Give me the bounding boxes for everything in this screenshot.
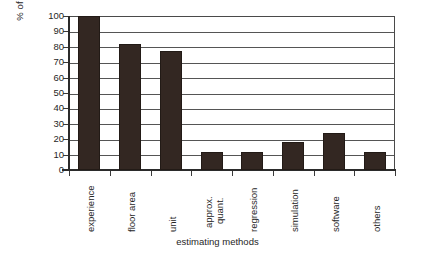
- bar: [119, 44, 141, 170]
- y-axis-tick-label: 90: [38, 26, 64, 36]
- bar: [241, 152, 263, 170]
- x-axis-tick-mark: [395, 171, 396, 176]
- y-axis-tick-label: 70: [38, 57, 64, 67]
- x-axis-tick-label-line: approx.: [203, 196, 214, 228]
- x-axis-tick-label-text: simulation: [289, 189, 300, 232]
- x-axis-tick-label-text: software: [330, 196, 341, 232]
- bar-chart: % of respondents 0102030405060708090100 …: [0, 0, 435, 257]
- bar: [323, 133, 345, 170]
- x-axis-tick-label-text: experience: [85, 186, 96, 232]
- bar: [364, 152, 386, 170]
- y-axis-tick-label: 30: [38, 119, 64, 129]
- x-axis-tick-label-line: quant.: [214, 198, 225, 224]
- x-axis-tick-label-text: unit: [167, 217, 178, 232]
- y-axis-tick-label: 0: [38, 165, 64, 175]
- y-axis-tick-label: 80: [38, 42, 64, 52]
- x-axis-tick-label-text: others: [371, 206, 382, 232]
- bar: [160, 51, 182, 170]
- bar: [282, 142, 304, 170]
- y-axis-tick-label: 60: [38, 73, 64, 83]
- x-axis-title: estimating methods: [0, 236, 435, 247]
- y-axis-title-text: % of respondents: [14, 0, 25, 48]
- y-axis-title: % of respondents: [14, 0, 30, 48]
- bar: [78, 16, 100, 170]
- y-axis-tick-labels: 0102030405060708090100: [38, 10, 64, 176]
- bar: [201, 152, 223, 170]
- y-axis-tick-label: 50: [38, 88, 64, 98]
- y-axis-tick-label: 100: [38, 11, 64, 21]
- y-axis-tick-label: 40: [38, 103, 64, 113]
- bars-container: [69, 16, 395, 170]
- x-axis-tick-label-text: floor area: [126, 192, 137, 232]
- x-axis-tick-labels: experiencefloor areaunitapprox.quant.reg…: [69, 176, 395, 234]
- y-axis-tick-label: 10: [38, 150, 64, 160]
- x-axis-tick-label-text: regression: [248, 188, 259, 232]
- y-axis-tick-label: 20: [38, 134, 64, 144]
